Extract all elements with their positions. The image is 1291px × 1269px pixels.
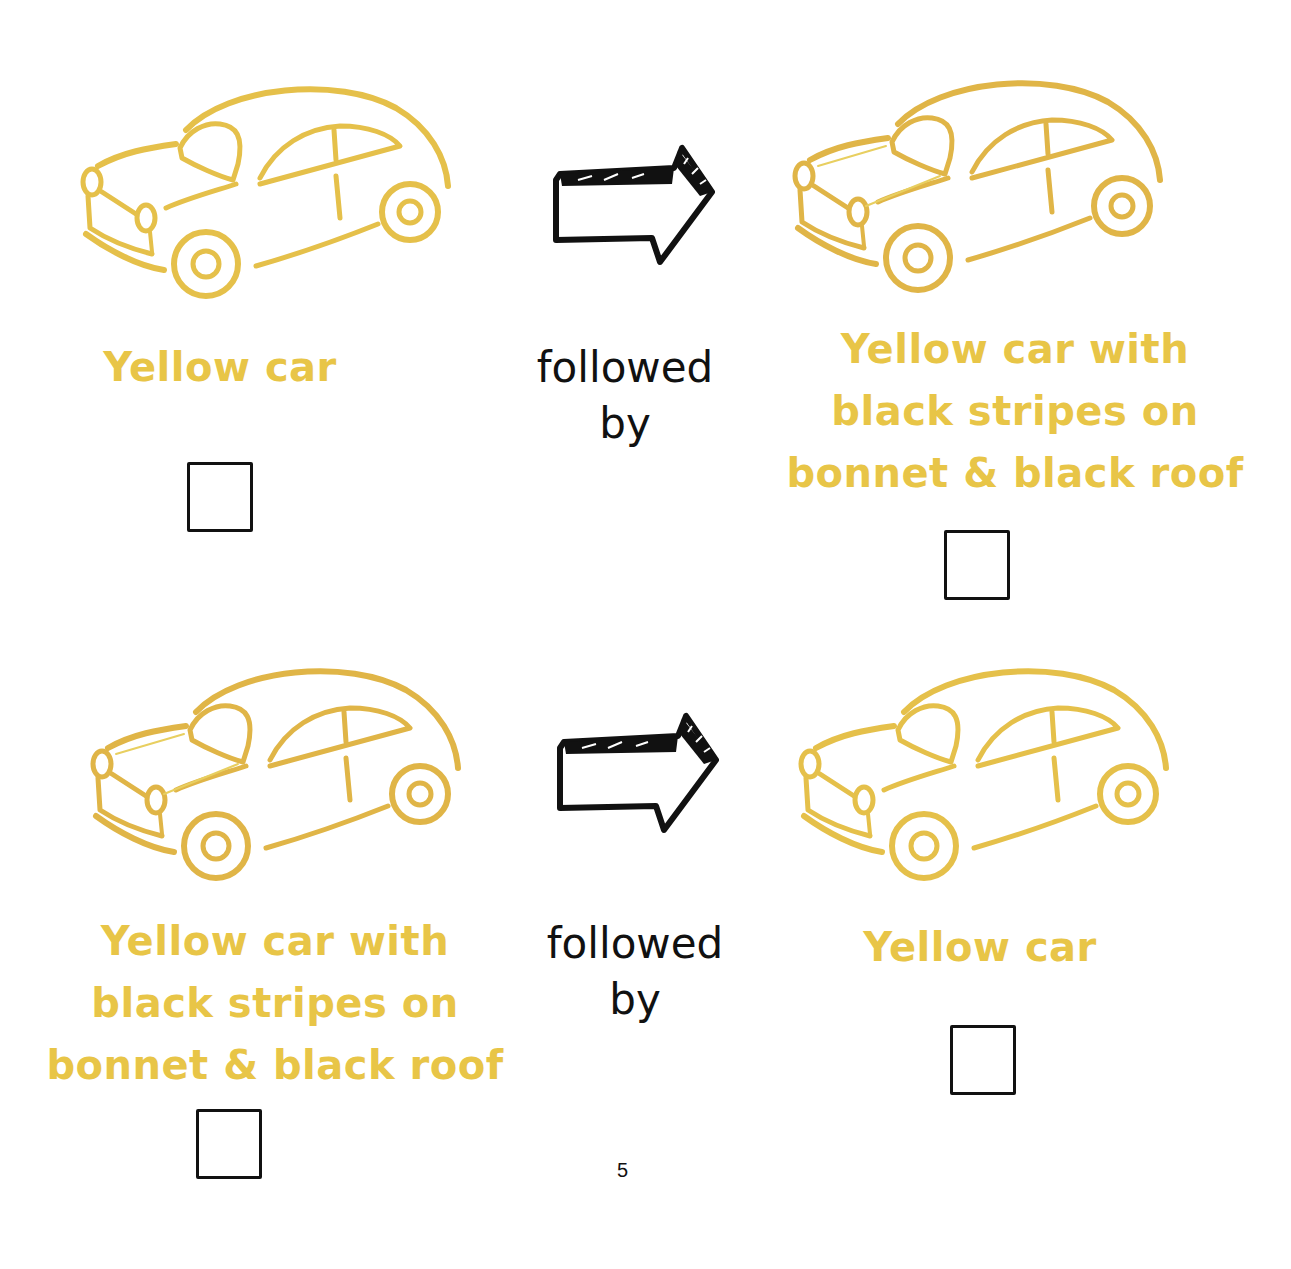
car-label-row2-right: Yellow car [830,916,1130,978]
car-icon [78,68,458,308]
car-yellow-plain-image [796,650,1176,890]
car-icon [790,62,1170,302]
car-yellow-striped-image [88,650,468,890]
connector-line: followed [520,340,730,396]
car-yellow-plain-image [78,68,458,308]
checkbox-row1-right[interactable] [944,530,1010,600]
checkbox-row2-right[interactable] [950,1025,1016,1095]
car-icon [796,650,1176,890]
page-number: 5 [617,1159,628,1182]
connector-text-row2: followed by [530,916,740,1028]
label-line: Yellow car [830,916,1130,978]
connector-line: by [520,396,730,452]
right-arrow-icon [552,708,724,842]
connector-text-row1: followed by [520,340,730,452]
label-line: Yellow car [70,336,370,398]
car-label-row1-left: Yellow car [70,336,370,398]
checkbox-row2-left[interactable] [196,1109,262,1179]
connector-line: followed [530,916,740,972]
label-line: bonnet & black roof [40,1034,510,1096]
label-line: bonnet & black roof [780,442,1250,504]
car-icon [88,650,468,890]
label-line: Yellow car with [40,910,510,972]
label-line: black stripes on [40,972,510,1034]
right-arrow-icon [548,140,720,274]
car-label-row1-right: Yellow car with black stripes on bonnet … [780,318,1250,504]
label-line: black stripes on [780,380,1250,442]
connector-line: by [530,972,740,1028]
checkbox-row1-left[interactable] [187,462,253,532]
car-label-row2-left: Yellow car with black stripes on bonnet … [40,910,510,1096]
car-yellow-striped-image [790,62,1170,302]
label-line: Yellow car with [780,318,1250,380]
